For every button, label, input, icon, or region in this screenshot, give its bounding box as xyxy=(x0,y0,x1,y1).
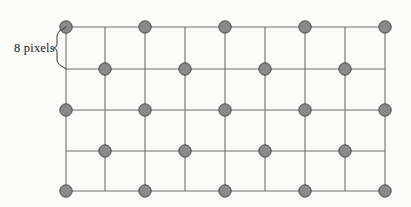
sample-dot-r2-c4 xyxy=(379,104,391,116)
sample-dot-r1-c1 xyxy=(179,63,191,75)
sample-dot-r3-c1 xyxy=(179,145,191,157)
sample-dot-r4-c3 xyxy=(299,185,311,197)
sampling-grid-diagram: 8 pixels xyxy=(0,0,411,207)
sample-dot-r4-c4 xyxy=(379,185,391,197)
sample-dot-r0-c1 xyxy=(139,21,151,33)
sample-dot-r1-c2 xyxy=(259,63,271,75)
measurement-label: 8 pixels xyxy=(14,41,55,56)
sample-dot-r2-c3 xyxy=(299,104,311,116)
sample-dot-r4-c1 xyxy=(139,185,151,197)
sample-dot-r2-c1 xyxy=(139,104,151,116)
sample-dot-r0-c3 xyxy=(299,21,311,33)
sample-dot-r1-c0 xyxy=(99,63,111,75)
grid-and-dots-canvas xyxy=(0,0,411,207)
sample-dot-r4-c0 xyxy=(60,185,72,197)
sample-dot-r0-c4 xyxy=(379,21,391,33)
sample-dot-r2-c2 xyxy=(219,104,231,116)
sample-dot-r4-c2 xyxy=(219,185,231,197)
sample-dot-r3-c3 xyxy=(339,145,351,157)
sample-dot-r1-c3 xyxy=(339,63,351,75)
sample-dot-r3-c0 xyxy=(99,145,111,157)
sample-dot-r2-c0 xyxy=(60,104,72,116)
sample-dot-r3-c2 xyxy=(259,145,271,157)
sample-dot-r0-c2 xyxy=(219,21,231,33)
